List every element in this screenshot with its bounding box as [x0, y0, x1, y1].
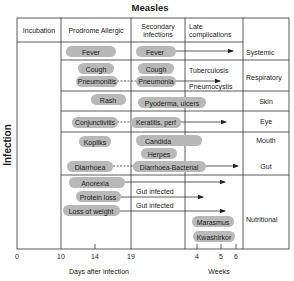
prodrome-symptoms: Fever Cough Pneumonitis Rash Conjunctivi…: [63, 46, 126, 216]
y-axis-label: Infection: [2, 124, 13, 166]
late-marasmus: Marasmus: [197, 219, 230, 226]
secondary-pyoderma: Pyoderma, ulcers: [145, 100, 200, 108]
category-mouth: Mouth: [256, 137, 276, 144]
symptom-cough: Cough: [86, 66, 107, 74]
tick-label-week-4: 4: [195, 253, 199, 260]
late-kwashirkor: Kwashirkor: [197, 234, 232, 241]
symptom-anorexia: Anorexia: [81, 180, 109, 187]
tick-label-19: 19: [127, 253, 135, 260]
category-systemic: Systemic: [246, 49, 275, 57]
symptom-kopliks: Kopliks: [84, 139, 107, 147]
column-headers: Incubation Prodrome Allergic Secondary i…: [23, 23, 232, 39]
secondary-gut-infected-2: Gut infected: [136, 202, 174, 209]
header-prodrome: Prodrome Allergic: [68, 27, 124, 35]
secondary-candida: Candida: [145, 138, 171, 145]
secondary-keratitis: Keratitis, perf: [136, 119, 176, 127]
symptom-loss-of-weight: Loss of weight: [69, 208, 114, 216]
category-skin: Skin: [259, 98, 273, 105]
measles-diagram: Measles Infection Incubation Prodrome Al…: [0, 0, 294, 281]
category-eye: Eye: [260, 118, 272, 126]
header-incubation: Incubation: [23, 27, 55, 34]
diagram-title: Measles: [132, 2, 169, 13]
secondary-cough: Cough: [146, 66, 167, 74]
weeks-axis-label: Weeks: [208, 268, 230, 275]
symptom-conjunctivitis: Conjunctivitis: [75, 119, 116, 127]
late-tuberculosis: Tuberculosis: [189, 67, 229, 74]
symptom-fever: Fever: [82, 49, 101, 56]
symptom-diarrhoea: Diarrhoea: [75, 164, 106, 171]
connectors: [113, 51, 238, 211]
tick-label-0: 0: [15, 253, 19, 260]
symptom-rash: Rash: [100, 97, 116, 104]
symptom-protein-loss: Protein loss: [80, 194, 117, 201]
header-secondary-line1: Secondary: [141, 23, 175, 31]
days-axis-label: Days after infection: [69, 268, 129, 276]
header-late-line2: complications: [189, 31, 232, 39]
late-pneumocystis: Pneumocystis: [189, 83, 233, 91]
tick-label-10: 10: [57, 253, 65, 260]
late-complications: Tuberculosis Pneumocystis Marasmus Kwash…: [189, 67, 235, 242]
header-secondary-line2: infections: [143, 31, 173, 38]
category-gut: Gut: [260, 163, 271, 170]
secondary-diarrhoea-bacterial: Diarrhoea-Bacterial: [140, 164, 199, 171]
category-respiratory: Respiratory: [246, 74, 282, 82]
tick-label-week-5: 5: [219, 253, 223, 260]
secondary-gut-infected-1: Gut infected: [136, 188, 174, 195]
header-late-line1: Late: [189, 23, 203, 30]
tick-label-14: 14: [91, 253, 99, 260]
symptom-pneumonitis: Pneumonitis: [78, 78, 117, 85]
tick-label-week-6: 6: [234, 253, 238, 260]
secondary-fever: Fever: [146, 49, 165, 56]
secondary-pneumonia: Pneumonia: [138, 78, 174, 85]
category-labels: Systemic Respiratory Skin Eye Mouth Gut …: [246, 49, 282, 223]
category-nutritional: Nutritional: [246, 216, 278, 223]
secondary-herpes: Herpes: [148, 151, 171, 159]
